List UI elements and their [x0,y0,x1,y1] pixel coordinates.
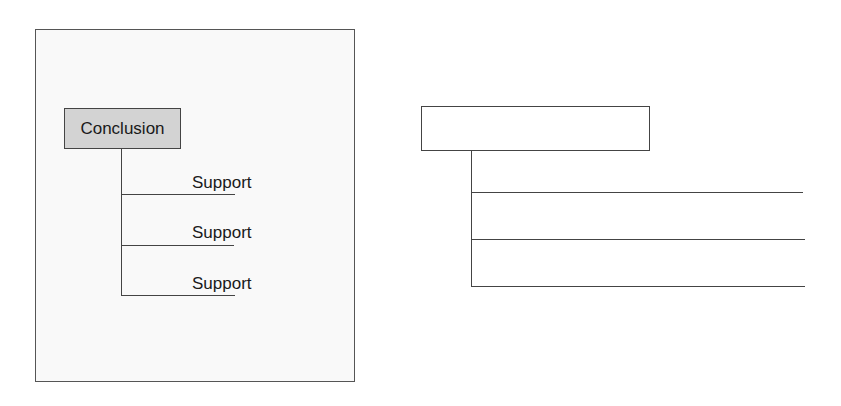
empty-support-line-2 [471,239,805,240]
support-label-1: Support [192,174,252,191]
support-label-3: Support [192,275,252,292]
empty-conclusion-box [421,106,650,151]
empty-support-line-3 [471,286,805,287]
support-line-3 [121,295,235,296]
conclusion-label: Conclusion [80,119,164,139]
empty-support-line-1 [471,192,803,193]
support-label-2: Support [192,224,252,241]
left-diagram-frame [35,29,355,382]
right-trunk-line [471,151,472,287]
left-trunk-line [121,149,122,295]
conclusion-box: Conclusion [64,108,181,149]
support-line-2 [121,245,234,246]
support-line-1 [121,194,235,195]
